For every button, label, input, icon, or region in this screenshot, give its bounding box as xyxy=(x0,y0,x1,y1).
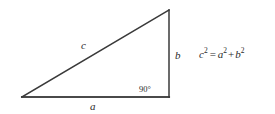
vertical-side-label: b xyxy=(175,50,181,61)
equation-term2-exponent: 2 xyxy=(241,46,245,55)
right-angle-label: 90° xyxy=(139,85,151,94)
equation-equals-sign: = xyxy=(208,48,218,60)
hypotenuse-label: c xyxy=(81,40,86,51)
pythagorean-theorem-figure: c a b 90° c2=a2+b2 xyxy=(0,0,275,114)
base-label: a xyxy=(90,101,96,112)
pythagorean-equation: c2=a2+b2 xyxy=(199,49,245,60)
